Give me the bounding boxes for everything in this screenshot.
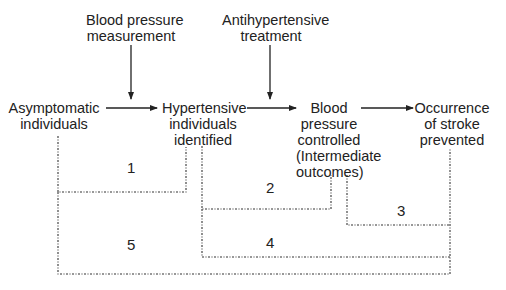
node-asymptomatic: Asymptomatic individuals — [6, 100, 102, 132]
text-line: individuals — [6, 116, 102, 132]
node-hypertensive: Hypertensive individuals identified — [162, 100, 244, 148]
text-line: Occurrence — [414, 100, 490, 116]
text-line: controlled — [296, 132, 362, 148]
text-line: Hypertensive — [162, 100, 244, 116]
text-line: pressure — [296, 116, 362, 132]
path-label-5: 5 — [127, 237, 135, 253]
text-line: identified — [162, 132, 244, 148]
intervention-antihypertensive: Antihypertensive treatment — [222, 12, 320, 44]
text-line: measurement — [86, 28, 176, 44]
text-line: Antihypertensive — [222, 12, 320, 28]
path-5-line — [58, 149, 450, 274]
path-label-1: 1 — [127, 160, 135, 176]
text-line: prevented — [414, 132, 490, 148]
path-label-2: 2 — [266, 180, 274, 196]
path-4-line — [202, 209, 450, 257]
text-line: Blood pressure — [86, 12, 176, 28]
node-stroke-prevented: Occurrence of stroke prevented — [414, 100, 490, 148]
path-label-3: 3 — [397, 203, 405, 219]
intervention-bp-measurement: Blood pressure measurement — [86, 12, 176, 44]
text-line: Asymptomatic — [6, 100, 102, 116]
text-line: (Intermediate — [296, 148, 362, 164]
text-line: of stroke — [414, 116, 490, 132]
node-bp-controlled: Blood pressure controlled (Intermediate … — [296, 100, 362, 180]
text-line: Blood — [296, 100, 362, 116]
text-line: individuals — [162, 116, 244, 132]
path-label-4: 4 — [266, 235, 274, 251]
text-line: outcomes) — [296, 164, 362, 180]
text-line: treatment — [222, 28, 320, 44]
